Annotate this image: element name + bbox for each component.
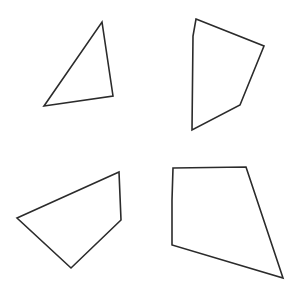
- shape-canvas: [0, 0, 299, 298]
- polygon-figure: [0, 0, 299, 298]
